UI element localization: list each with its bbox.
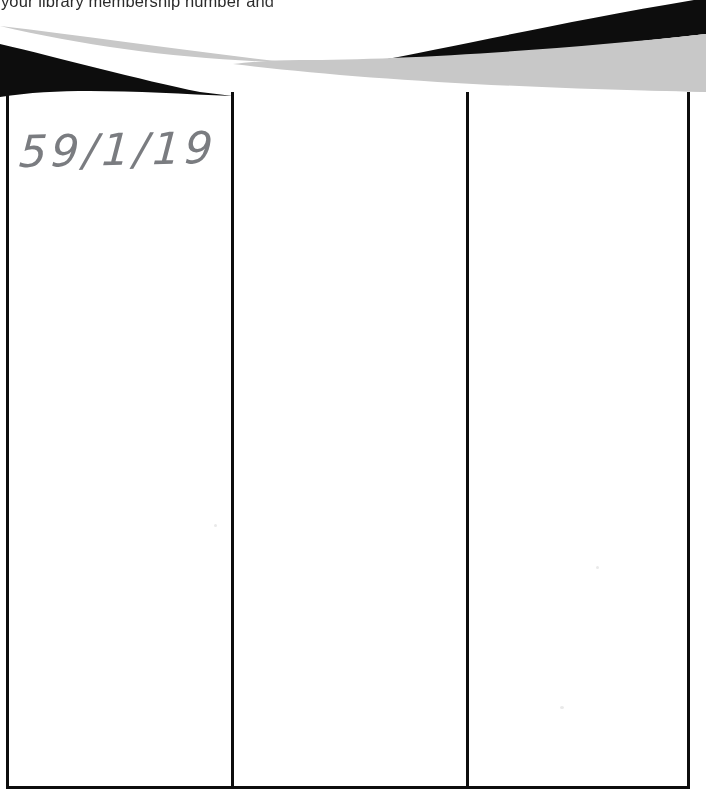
table-cell-column-1[interactable]: 59/1/19 xyxy=(9,92,231,786)
table-border-right xyxy=(687,92,690,789)
table-cell-column-3[interactable] xyxy=(469,92,687,786)
table-border-bottom xyxy=(6,786,690,789)
scanned-page: your library membership number and 59/1/… xyxy=(0,0,706,794)
form-table: 59/1/19 xyxy=(6,92,690,789)
handwritten-entry-date: 59/1/19 xyxy=(18,122,219,177)
table-cell-column-2[interactable] xyxy=(234,92,466,786)
decorative-wave-graphic xyxy=(0,0,706,104)
